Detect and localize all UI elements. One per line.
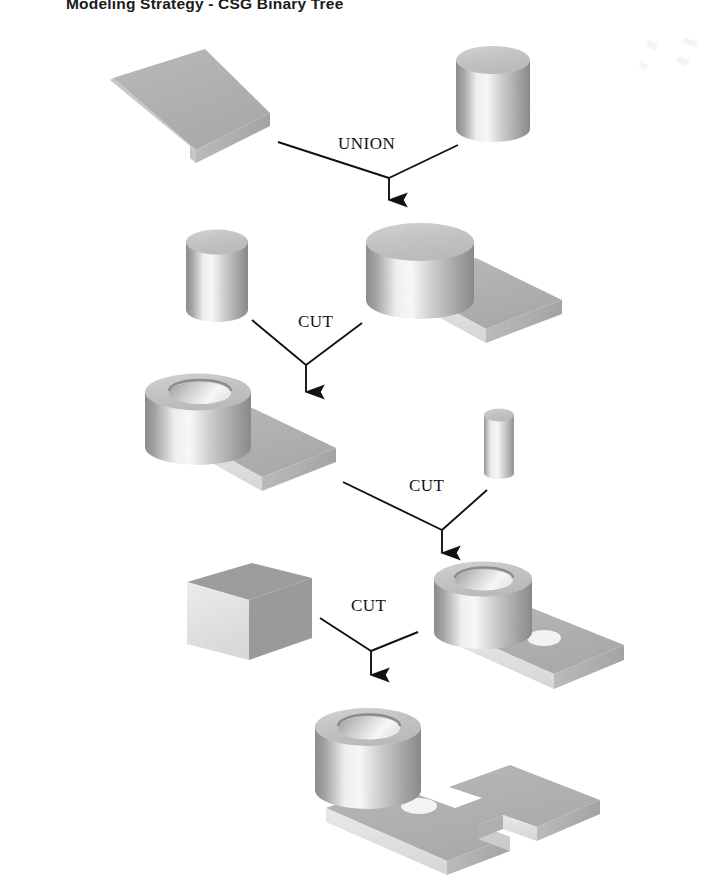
shape-large-cylinder — [456, 46, 530, 142]
operation-label-cut-3: CUT — [351, 596, 387, 616]
shape-base-slab-block — [110, 49, 270, 163]
shape-cut1-result — [145, 374, 336, 492]
operation-label-union: UNION — [338, 134, 395, 154]
diagram-page: Modeling Strategy - CSG Binary Tree — [0, 0, 714, 884]
shape-final-part — [315, 708, 600, 875]
connector-cut-3 — [320, 618, 418, 675]
operation-label-cut-2: CUT — [409, 476, 445, 496]
operation-label-cut-1: CUT — [298, 312, 334, 332]
shape-small-hole-cylinder — [484, 409, 514, 479]
shape-notch-wall-block — [187, 563, 312, 660]
csg-tree-canvas — [0, 0, 714, 884]
shape-union-result — [366, 223, 562, 343]
shape-bore-cylinder — [186, 230, 248, 323]
scan-artifact — [639, 38, 698, 70]
shape-cut2-result — [434, 562, 624, 690]
